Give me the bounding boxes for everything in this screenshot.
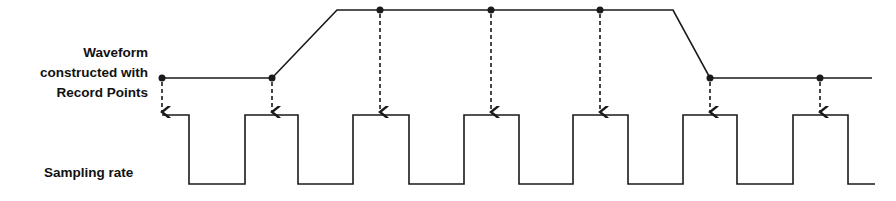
record-point-dot (377, 7, 384, 14)
record-point-dot (488, 7, 495, 14)
sampling-square-wave (162, 115, 875, 184)
record-point-dot (269, 75, 276, 82)
waveform-path (162, 10, 872, 78)
record-point-dot (159, 75, 166, 82)
record-point-dot (707, 75, 714, 82)
record-point-dot (597, 7, 604, 14)
sample-arrows (162, 14, 820, 112)
waveform-line (162, 10, 872, 78)
square-wave-path (162, 115, 875, 184)
record-point-dot (817, 75, 824, 82)
waveform-diagram (0, 0, 896, 201)
